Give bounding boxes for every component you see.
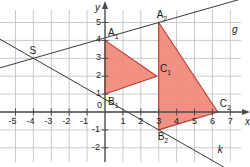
point-label-c1: C1 — [160, 64, 171, 76]
y-tick-label: 2 — [96, 71, 101, 80]
point-label-a1: A1 — [108, 28, 119, 40]
x-tick-label: 5 — [192, 117, 197, 126]
x-tick-label: 4 — [174, 117, 179, 126]
line-label-k: k — [218, 145, 223, 155]
y-tick-label: 1 — [96, 89, 101, 98]
y-tick-label: -1 — [92, 125, 100, 134]
point-label-c2: C2 — [220, 99, 231, 111]
coordinate-plane-svg — [0, 0, 250, 167]
x-tick-label: 2 — [138, 117, 143, 126]
line-label-g: g — [232, 25, 238, 35]
x-tick-label: 1 — [120, 117, 125, 126]
y-tick-label: -2 — [92, 143, 100, 152]
x-tick-label: -3 — [44, 117, 52, 126]
point-label-s: S — [29, 46, 36, 56]
x-tick-label: 3 — [156, 117, 161, 126]
x-tick-label: -4 — [26, 117, 34, 126]
point-label-b2: B2 — [158, 132, 169, 144]
y-axis-arrow — [102, 1, 108, 9]
point-label-b1: B1 — [108, 97, 119, 109]
y-axis-label: y — [95, 3, 100, 13]
x-tick-label: 6 — [210, 117, 215, 126]
y-tick-label: 3 — [96, 53, 101, 62]
x-axis-label: x — [245, 117, 250, 127]
y-tick-label: 5 — [96, 18, 101, 27]
origin-label: 0 — [97, 101, 102, 110]
triangle-1 — [105, 40, 157, 94]
x-tick-label: -5 — [9, 117, 17, 126]
x-tick-label: 7 — [228, 117, 233, 126]
x-tick-label: -1 — [80, 117, 88, 126]
x-tick-label: -2 — [62, 117, 70, 126]
point-label-a2: A2 — [157, 10, 168, 22]
geometry-figure: -5-4-3-2-1123456754321-1-20xyA1B1C1A2B2C… — [0, 0, 250, 167]
y-tick-label: 4 — [96, 35, 101, 44]
x-axis-arrow — [242, 109, 250, 115]
